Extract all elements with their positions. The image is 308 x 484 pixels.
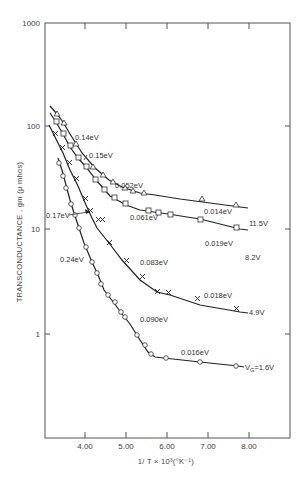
- label-0-019ev: 0.019eV: [205, 239, 233, 248]
- label-0-083ev: 0.083eV: [140, 258, 168, 267]
- y-axis-title: TRANSCONDUCTANCE , gm (μ mhos): [15, 161, 24, 302]
- label-0-061ev: 0.061eV: [130, 213, 158, 222]
- chart: 1000 100 10 1 4.00 5.00 6.00 7.00 8.00 1…: [0, 0, 308, 484]
- label-0-018ev: 0.018eV: [204, 291, 232, 300]
- x-tick-8: 8.00: [241, 442, 257, 451]
- x-tick-7: 7.00: [200, 442, 216, 451]
- label-8-2v: 8.2V: [245, 253, 260, 262]
- label-4-9v: 4.9V: [249, 308, 264, 317]
- label-0-15ev: 0.15eV: [89, 151, 113, 160]
- triangle-markers: [54, 111, 239, 207]
- label-0-14ev: 0.14eV: [75, 133, 99, 142]
- arrow-0-17ev: [69, 212, 88, 215]
- y-tick-10: 10: [31, 225, 40, 234]
- x-tick-4: 4.00: [77, 442, 93, 451]
- y-tick-100: 100: [27, 122, 41, 131]
- label-0-014ev: 0.014eV: [204, 207, 232, 216]
- label-0-24ev: 0.24eV: [60, 255, 84, 264]
- y-tick-1000: 1000: [22, 19, 40, 28]
- label-0-17ev: 0.17eV: [46, 211, 70, 220]
- x-tick-6: 6.00: [159, 442, 175, 451]
- label-0-016ev: 0.016eV: [181, 348, 209, 357]
- y-tick-1: 1: [36, 330, 41, 339]
- label-0-052ev: 0.052eV: [115, 181, 143, 190]
- label-vg-1-6v: VG=1.6V: [245, 363, 274, 373]
- label-0-090ev: 0.090eV: [140, 315, 168, 324]
- annotations: 0.14eV 0.15eV 0.052eV 0.061eV 0.014eV 0.…: [46, 133, 274, 373]
- label-11-5v: 11.5V: [249, 219, 268, 228]
- x-tick-5: 5.00: [118, 442, 134, 451]
- plot-frame: [45, 23, 290, 438]
- x-axis-title: 1/ T × 10³(°K⁻¹): [138, 457, 195, 466]
